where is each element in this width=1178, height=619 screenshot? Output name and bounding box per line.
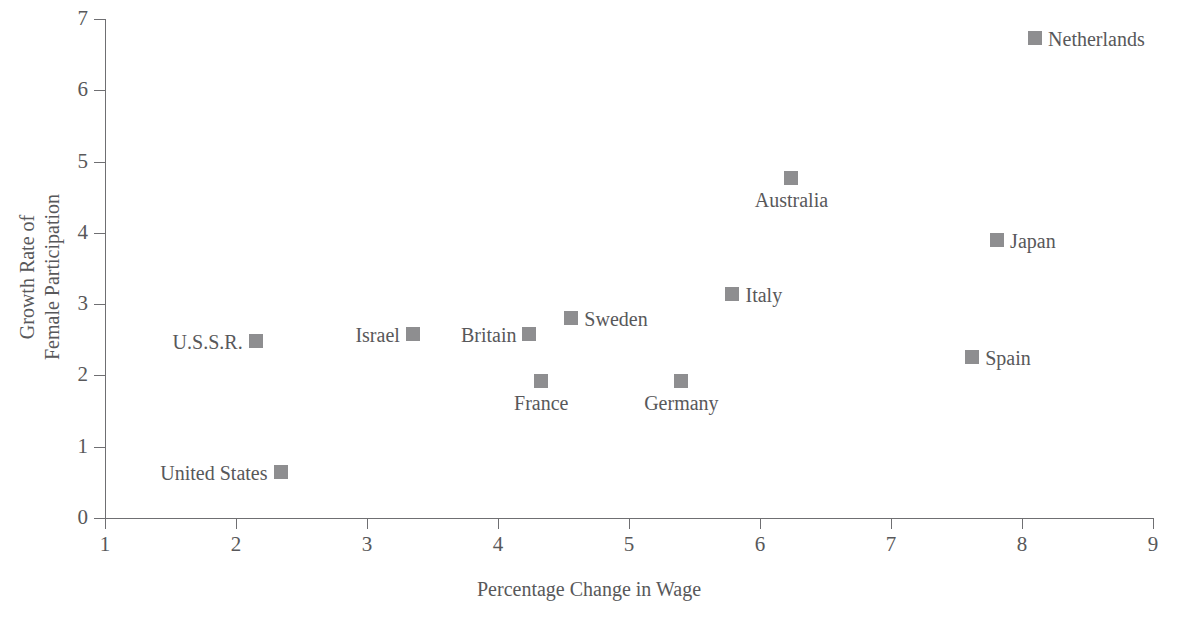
y-tick-0 [94,518,105,519]
data-point-label: United States [160,463,267,483]
data-point-marker [249,334,263,348]
x-tick-5 [629,518,630,529]
data-point-label: Spain [985,348,1031,368]
y-tick-1 [94,447,105,448]
x-tick-9 [1153,518,1154,529]
y-tick-3 [94,304,105,305]
data-point-marker [274,465,288,479]
x-tick-label-3: 3 [347,534,387,555]
data-point-label: Italy [745,285,782,305]
x-tick-4 [498,518,499,529]
x-tick-label-1: 1 [85,534,125,555]
scatter-chart: 01234567 123456789 NetherlandsAustraliaJ… [0,0,1178,619]
data-point-label: Netherlands [1048,29,1145,49]
data-point-marker [674,374,688,388]
y-tick-2 [94,375,105,376]
x-tick-label-6: 6 [740,534,780,555]
data-point-label: Germany [644,393,718,413]
data-point-label: Japan [1010,231,1056,251]
x-tick-6 [760,518,761,529]
x-tick-2 [236,518,237,529]
data-point-marker [725,287,739,301]
data-point-marker [534,374,548,388]
data-point-label: France [514,393,568,413]
data-point-marker [522,327,536,341]
x-tick-label-7: 7 [871,534,911,555]
data-point-label: Australia [755,190,828,210]
plot-area: NetherlandsAustraliaJapanItalySwedenIsra… [105,19,1153,518]
x-axis-title: Percentage Change in Wage [0,578,1178,601]
x-tick-label-9: 9 [1133,534,1173,555]
data-point-label: Sweden [584,309,647,329]
y-tick-label-0: 0 [48,507,88,528]
x-tick-8 [1022,518,1023,529]
data-point-label: U.S.S.R. [173,332,243,352]
data-point-marker [990,233,1004,247]
y-tick-label-7: 7 [48,8,88,29]
y-tick-4 [94,233,105,234]
x-tick-7 [891,518,892,529]
data-point-label: Britain [461,325,517,345]
data-point-marker [564,311,578,325]
data-point-label: Israel [355,325,399,345]
x-tick-label-8: 8 [1002,534,1042,555]
x-tick-1 [105,518,106,529]
y-tick-5 [94,162,105,163]
x-tick-label-5: 5 [609,534,649,555]
data-point-marker [965,350,979,364]
data-point-marker [1028,31,1042,45]
data-point-marker [784,171,798,185]
data-point-marker [406,327,420,341]
y-tick-6 [94,90,105,91]
y-tick-7 [94,19,105,20]
x-tick-label-4: 4 [478,534,518,555]
y-axis-title: Growth Rate of Female Participation [15,67,65,487]
x-tick-3 [367,518,368,529]
x-tick-label-2: 2 [216,534,256,555]
